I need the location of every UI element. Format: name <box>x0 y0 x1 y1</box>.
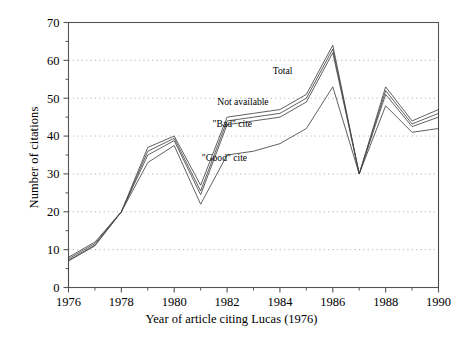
ytick-label-30: 30 <box>47 167 60 181</box>
xtick-label-1984: 1984 <box>267 295 293 309</box>
xtick-label-1988: 1988 <box>373 295 398 309</box>
ytick-label-20: 20 <box>47 205 60 219</box>
xtick-label-1982: 1982 <box>215 295 240 309</box>
x-axis-label: Year of article citing Lucas (1976) <box>0 312 463 327</box>
xtick-label-1980: 1980 <box>162 295 187 309</box>
series-label-badcite: "Bad" cite <box>213 118 253 129</box>
series-label-notavailable: Not available <box>217 96 268 107</box>
xtick-label-1978: 1978 <box>109 295 134 309</box>
series-line-badcite <box>69 53 439 260</box>
ytick-label-10: 10 <box>47 243 60 257</box>
ytick-label-70: 70 <box>47 16 60 30</box>
ytick-label-50: 50 <box>47 92 60 106</box>
xtick-label-1976: 1976 <box>56 295 81 309</box>
ytick-label-60: 60 <box>47 54 60 68</box>
plot-frame <box>69 23 439 288</box>
xtick-label-1990: 1990 <box>426 295 451 309</box>
series-line-notavailable <box>69 49 439 259</box>
ytick-label-40: 40 <box>47 129 60 143</box>
series-label-goodcite: "Good" cite <box>202 152 247 163</box>
series-label-total: Total <box>273 65 293 76</box>
y-axis-label: Number of citations <box>27 58 42 258</box>
xtick-label-1986: 1986 <box>320 295 345 309</box>
figure: Number of citations Year of article citi… <box>0 0 463 341</box>
ytick-label-0: 0 <box>53 281 59 295</box>
line-chart-plot: 0102030405060701976197819801982198419861… <box>0 0 463 341</box>
